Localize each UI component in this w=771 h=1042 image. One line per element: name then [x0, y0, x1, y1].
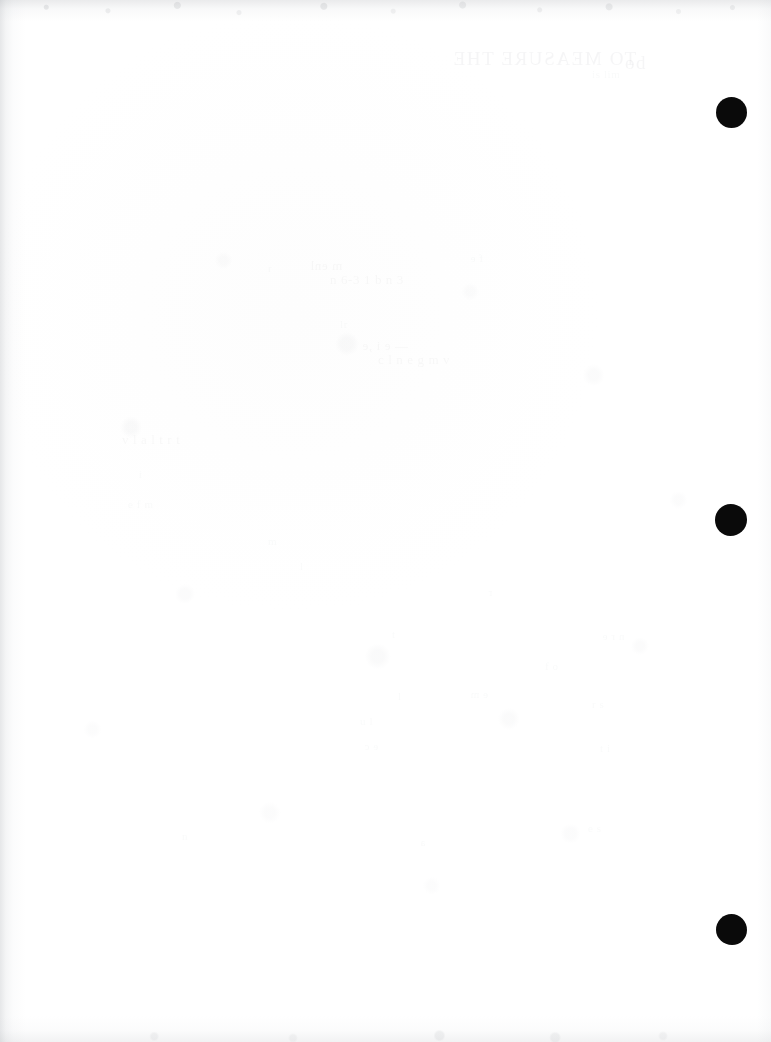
ghost-text-line: a — [420, 836, 425, 848]
ghost-text-line: lr — [340, 318, 348, 330]
ghost-text-line: c l n e g m v — [378, 352, 450, 368]
ghost-text-line: v l a l t r t — [122, 432, 180, 448]
ghost-text-line: i — [138, 468, 142, 480]
ghost-text-line: l — [300, 560, 304, 572]
scanned-page: TO MEASURE THEodis limm enln 6-3 1 b n 3… — [0, 0, 771, 1042]
ghost-text-line: n — [182, 830, 188, 842]
ghost-text-line: e c — [364, 740, 378, 752]
punch-mark-top — [716, 97, 747, 128]
ghost-text-line: m — [268, 535, 277, 547]
scan-noise-top — [0, 0, 771, 18]
ghost-text-line: r — [488, 586, 492, 598]
ghost-text-line: r s — [592, 698, 605, 710]
ghost-text-line: u l — [360, 715, 373, 727]
ghost-text-line: f e — [470, 252, 483, 264]
scan-shadow-right — [757, 0, 771, 1042]
ghost-text-line: e f m — [128, 498, 154, 510]
paper-background — [0, 0, 771, 1042]
ghost-text-line: TO MEASURE THE — [452, 48, 636, 70]
ghost-text-line: t i — [600, 742, 611, 754]
scan-shadow-left — [0, 0, 26, 1042]
ghost-text-line: od — [625, 52, 647, 74]
ghost-text-line: f o — [545, 660, 559, 672]
ghost-text-line: l — [398, 690, 402, 702]
scan-noise-bottom — [0, 1022, 771, 1042]
punch-mark-bottom — [716, 914, 747, 945]
ghost-text-line: n 6-3 1 b n 3 — [330, 272, 404, 288]
ghost-text-line: is lim — [592, 68, 620, 80]
ghost-text-line: r — [268, 262, 272, 274]
ghost-text-line: e m — [470, 688, 488, 700]
ghost-text-line: e s — [588, 822, 602, 834]
ghost-text-line: t — [392, 628, 396, 640]
ghost-text-line: n r e — [602, 630, 625, 642]
